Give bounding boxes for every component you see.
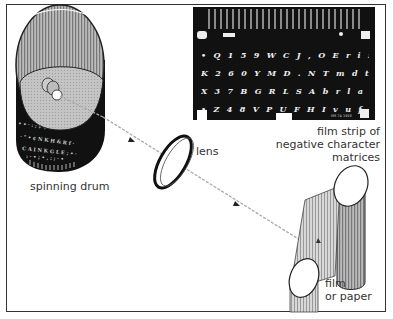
label-film-line2: or paper bbox=[325, 290, 372, 303]
label-film-or-paper: film or paper bbox=[325, 277, 372, 303]
beam-arrow-icon bbox=[128, 137, 135, 142]
label-film-strip-line2: negative character bbox=[272, 138, 380, 151]
label-film-strip-line1: film strip of bbox=[272, 125, 380, 138]
spinning-drum: • • · : ; ‡ ¶ • • • · · ° • ¢ N K H & R … bbox=[16, 5, 105, 172]
label-film-line1: film bbox=[325, 277, 372, 290]
label-film-strip: film strip of negative character matrice… bbox=[272, 125, 380, 164]
label-lens: lens bbox=[196, 145, 219, 158]
label-spinning-drum: spinning drum bbox=[30, 180, 109, 193]
label-film-strip-line3: matrices bbox=[272, 151, 380, 164]
lens bbox=[147, 130, 200, 193]
